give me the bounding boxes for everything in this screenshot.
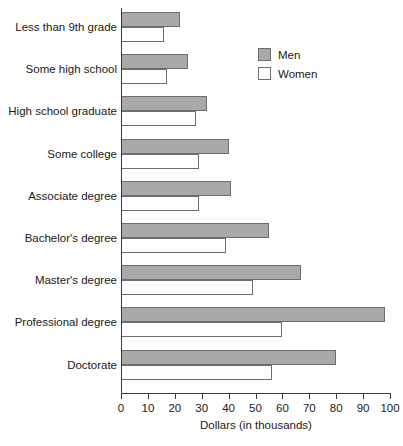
category-label: Associate degree xyxy=(0,190,117,202)
bar-women xyxy=(121,111,196,126)
bar-women xyxy=(121,27,164,42)
x-axis-tick xyxy=(148,393,149,399)
category-label: Bachelor's degree xyxy=(0,232,117,244)
bar-men xyxy=(121,181,231,196)
bar-men xyxy=(121,307,385,322)
bar-women xyxy=(121,365,272,380)
bar-men xyxy=(121,12,180,27)
bar-men xyxy=(121,265,301,280)
category-label: Some high school xyxy=(0,63,117,75)
x-axis-tick xyxy=(282,393,283,399)
category-label: High school graduate xyxy=(0,105,117,117)
earnings-by-education-bar-chart: Less than 9th gradeSome high schoolHigh … xyxy=(0,0,403,446)
x-axis-tick xyxy=(336,393,337,399)
x-axis-tick xyxy=(121,393,122,399)
bar-women xyxy=(121,69,167,84)
bar-women xyxy=(121,238,226,253)
y-axis-line xyxy=(121,8,122,394)
bar-men xyxy=(121,223,269,238)
legend-swatch-women-icon xyxy=(258,67,271,80)
x-axis-tick xyxy=(229,393,230,399)
bar-men xyxy=(121,139,229,154)
plot-area xyxy=(121,8,390,393)
x-axis-tick xyxy=(202,393,203,399)
bar-women xyxy=(121,154,199,169)
bar-men xyxy=(121,54,188,69)
bar-women xyxy=(121,196,199,211)
legend-swatch-men-icon xyxy=(258,48,271,61)
x-axis-tick xyxy=(309,393,310,399)
legend-label-men: Men xyxy=(278,49,300,61)
legend-item-men: Men xyxy=(258,46,317,63)
bar-women xyxy=(121,280,253,295)
legend-label-women: Women xyxy=(278,68,317,80)
category-label: Doctorate xyxy=(0,359,117,371)
x-axis-tick xyxy=(256,393,257,399)
legend: Men Women xyxy=(258,46,317,84)
x-axis-title: Dollars (in thousands) xyxy=(121,419,391,431)
category-label: Less than 9th grade xyxy=(0,21,117,33)
bar-women xyxy=(121,322,282,337)
category-label: Master's degree xyxy=(0,274,117,286)
legend-item-women: Women xyxy=(258,65,317,82)
x-axis-tick xyxy=(390,393,391,399)
x-axis-tick xyxy=(363,393,364,399)
bar-men xyxy=(121,96,207,111)
bar-men xyxy=(121,350,336,365)
x-axis-tick-label: 100 xyxy=(370,401,403,415)
x-axis-tick xyxy=(175,393,176,399)
category-label: Professional degree xyxy=(0,316,117,328)
category-label: Some college xyxy=(0,148,117,160)
